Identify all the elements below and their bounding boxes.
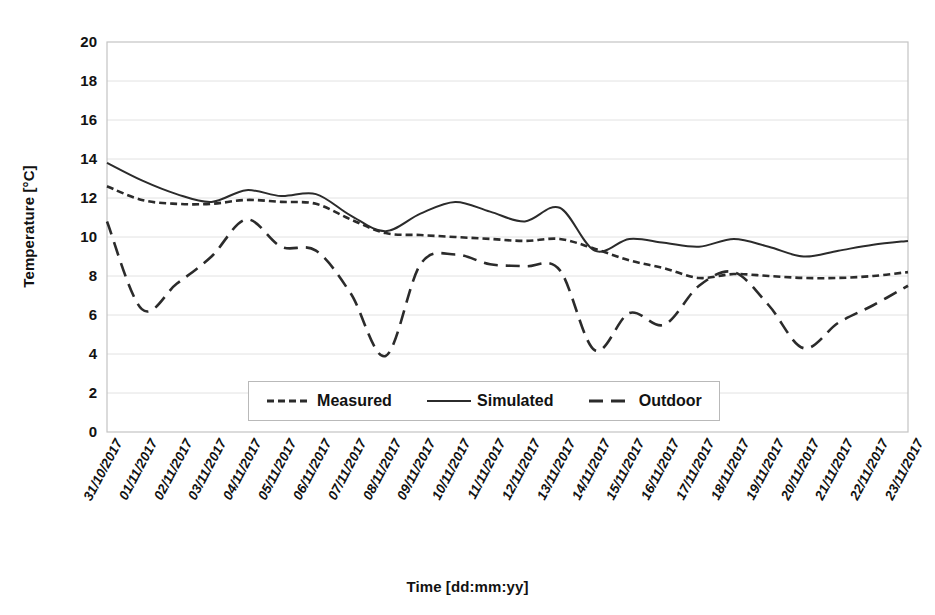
legend-swatch-dotted-icon xyxy=(266,396,312,406)
legend-swatch-dashed-icon xyxy=(588,396,634,406)
x-axis-title: Time [dd:mm:yy] xyxy=(0,578,935,595)
series-line-simulated xyxy=(107,163,908,257)
legend-swatch-solid-icon xyxy=(426,396,472,406)
legend-label: Measured xyxy=(317,392,392,410)
x-axis-tick-labels: 31/10/201701/11/201702/11/201703/11/2017… xyxy=(107,437,908,577)
temperature-line-chart: Temperature [°C] 20181614121086420 31/10… xyxy=(0,0,935,615)
legend-label: Simulated xyxy=(477,392,553,410)
legend-item-outdoor: Outdoor xyxy=(588,392,702,410)
legend-label: Outdoor xyxy=(639,392,702,410)
chart-legend: MeasuredSimulatedOutdoor xyxy=(248,381,720,421)
legend-item-simulated: Simulated xyxy=(426,392,553,410)
legend-item-measured: Measured xyxy=(266,392,392,410)
